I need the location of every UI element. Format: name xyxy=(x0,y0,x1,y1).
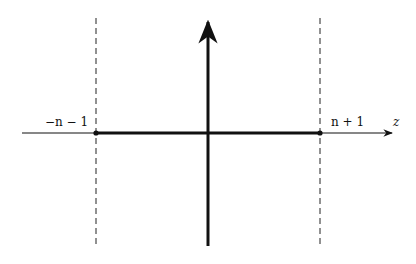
point-left xyxy=(93,130,98,135)
diagram-canvas: −n − 1 n + 1 z xyxy=(0,0,416,264)
label-right-point: n + 1 xyxy=(331,115,364,129)
point-right xyxy=(317,130,322,135)
label-z-axis: z xyxy=(392,115,400,129)
label-left-point: −n − 1 xyxy=(45,115,88,129)
